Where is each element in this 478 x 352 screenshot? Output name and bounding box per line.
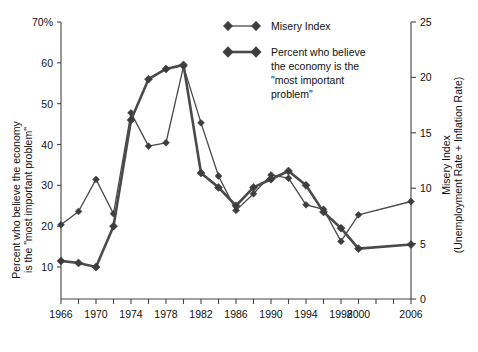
right-axis-title-line1: Misery Index: [440, 134, 452, 194]
legend-marker-left-percent: [223, 47, 233, 58]
x-tick-label-1978: 1978: [154, 308, 178, 320]
chart-container: 10203040506070% 0510152025 1966197019741…: [0, 0, 478, 352]
left-axis-ticks: 10203040506070%: [32, 16, 61, 273]
left-tick-label-10: 10: [41, 261, 53, 273]
left-axis-title-line2: is the "most important problem": [22, 127, 34, 273]
data-point-2000: [355, 211, 362, 218]
data-point-1972: [110, 222, 118, 230]
data-point-1998: [338, 238, 345, 245]
right-tick-label-0: 0: [420, 293, 426, 305]
data-point-1994: [303, 201, 310, 208]
data-point-1980: [180, 61, 188, 69]
right-tick-label-15: 15: [420, 127, 432, 139]
x-axis-ticks: 1966197019741978198219861990199419982000…: [49, 299, 423, 320]
right-tick-label-20: 20: [420, 71, 432, 83]
legend-item-misery-index[interactable]: Misery Index: [223, 20, 331, 32]
series-misery-index: [58, 63, 415, 245]
x-tick-label-1994: 1994: [294, 308, 318, 320]
data-point-2006: [407, 241, 415, 249]
dual-axis-line-chart: 10203040506070% 0510152025 1966197019741…: [0, 0, 478, 352]
x-tick-label-1986: 1986: [224, 308, 248, 320]
x-tick-label-1966: 1966: [49, 308, 73, 320]
data-point-1984: [215, 173, 222, 180]
data-point-1992: [285, 175, 292, 182]
data-point-1976: [145, 143, 152, 150]
x-tick-label-1974: 1974: [119, 308, 143, 320]
left-tick-label-70: 70%: [32, 16, 53, 28]
right-tick-label-25: 25: [420, 16, 432, 28]
right-axis-title-line2: (Unemployment Rate + Inflation Rate): [452, 77, 464, 254]
legend-label-percent-line1: Percent who believe: [271, 46, 366, 58]
x-tick-label-2000: 2000: [347, 308, 371, 320]
data-point-1982: [198, 119, 205, 126]
x-tick-label-2006: 2006: [399, 308, 423, 320]
data-point-1966: [57, 257, 65, 265]
chart-legend: Misery Index Percent who believe the eco…: [223, 20, 366, 100]
data-point-1970: [93, 176, 100, 183]
legend-marker-right-misery: [251, 21, 260, 31]
series-percent-economy: [57, 61, 415, 271]
data-point-1990: [267, 175, 275, 183]
x-tick-label-1982: 1982: [189, 308, 213, 320]
legend-label-misery-index: Misery Index: [271, 20, 331, 32]
left-tick-label-30: 30: [41, 179, 53, 191]
left-axis-title-line1: Percent who believe the economy: [10, 120, 22, 278]
right-tick-label-10: 10: [420, 182, 432, 194]
legend-label-percent-line2: the economy is the: [271, 60, 359, 72]
left-tick-label-50: 50: [41, 98, 53, 110]
legend-marker-right-percent: [251, 47, 261, 58]
left-tick-label-60: 60: [41, 57, 53, 69]
legend-label-percent-line4: problem": [271, 88, 313, 100]
legend-label-percent-line3: "most important: [271, 74, 344, 86]
series-line-1: [61, 65, 411, 267]
legend-marker-left-misery: [223, 21, 232, 31]
legend-item-percent-economy[interactable]: Percent who believe the economy is the "…: [223, 46, 366, 100]
data-point-2006: [408, 198, 415, 205]
series-layer: [57, 61, 415, 271]
data-point-1968: [75, 259, 83, 267]
right-axis-ticks: 0510152025: [411, 16, 432, 305]
left-tick-label-20: 20: [41, 220, 53, 232]
left-tick-label-40: 40: [41, 139, 53, 151]
data-point-1978: [163, 139, 170, 146]
data-point-1970: [92, 263, 100, 271]
x-tick-label-1990: 1990: [259, 308, 283, 320]
x-tick-label-1970: 1970: [84, 308, 108, 320]
right-tick-label-5: 5: [420, 238, 426, 250]
